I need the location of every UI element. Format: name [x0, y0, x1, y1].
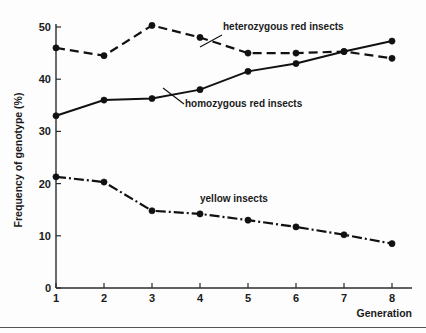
series-annotations: heterozygous red insectshomozygous red i… — [185, 21, 344, 204]
data-point — [293, 60, 299, 66]
data-point — [245, 50, 251, 56]
data-point — [101, 179, 107, 185]
data-point — [341, 48, 347, 54]
x-tick-label: 4 — [197, 292, 204, 304]
x-tick-label: 8 — [389, 292, 395, 304]
y-tick-label: 10 — [39, 230, 51, 242]
line-chart: 01020304050 12345678 heterozygous red in… — [0, 0, 426, 333]
x-tick-label: 5 — [245, 292, 251, 304]
y-tick-label: 20 — [39, 178, 51, 190]
data-point — [293, 224, 299, 230]
series-annotation-1: homozygous red insects — [185, 98, 303, 109]
data-point — [293, 50, 299, 56]
y-tick-label: 50 — [39, 21, 51, 33]
data-point — [149, 208, 155, 214]
x-axis-ticks: 12345678 — [53, 283, 395, 304]
x-axis-title: Generation — [357, 307, 412, 319]
series-layer — [53, 22, 395, 246]
data-point — [149, 95, 155, 101]
y-tick-label: 30 — [39, 125, 51, 137]
data-point — [341, 232, 347, 238]
data-point — [389, 55, 395, 61]
x-tick-label: 7 — [341, 292, 347, 304]
footer-divider — [0, 327, 426, 328]
data-point — [245, 217, 251, 223]
series-annotation-2: yellow insects — [200, 193, 268, 204]
data-point — [197, 34, 203, 40]
x-tick-label: 1 — [53, 292, 59, 304]
chart-figure: 01020304050 12345678 heterozygous red in… — [0, 0, 426, 333]
data-point — [101, 97, 107, 103]
data-point — [53, 113, 59, 119]
data-point — [53, 174, 59, 180]
y-tick-label: 0 — [45, 282, 51, 294]
x-tick-label: 6 — [293, 292, 299, 304]
series-annotation-0: heterozygous red insects — [223, 21, 344, 32]
data-point — [101, 53, 107, 59]
x-tick-label: 2 — [101, 292, 107, 304]
x-tick-label: 3 — [149, 292, 155, 304]
data-point — [149, 22, 155, 28]
data-point — [389, 241, 395, 247]
data-point — [389, 38, 395, 44]
data-point — [245, 68, 251, 74]
data-point — [197, 87, 203, 93]
y-tick-label: 40 — [39, 73, 51, 85]
data-point — [197, 211, 203, 217]
y-axis-ticks: 01020304050 — [39, 21, 61, 294]
data-point — [53, 45, 59, 51]
y-axis-title: Frequency of genotype (%) — [12, 93, 24, 228]
